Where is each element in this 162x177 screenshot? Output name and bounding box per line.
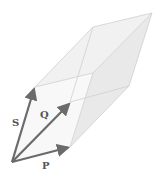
parallelepiped-diagram: S Q P — [0, 0, 162, 177]
diagram-svg: S Q P — [0, 0, 162, 177]
label-q: Q — [40, 109, 49, 120]
label-s: S — [12, 117, 19, 128]
label-p: P — [42, 160, 50, 171]
